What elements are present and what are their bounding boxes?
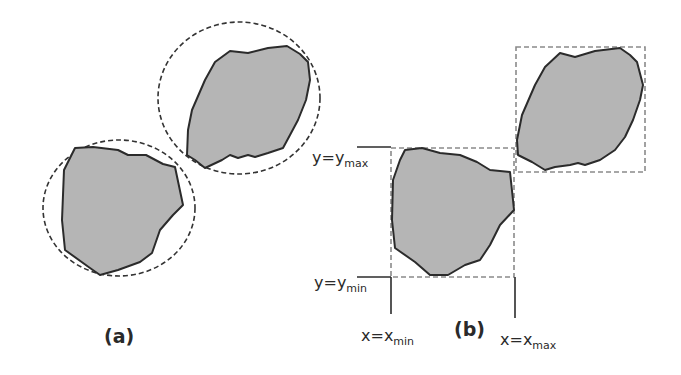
bounding-shapes-diagram: (a) y=ymax y=ymin x=xmin x=xmax (b)	[0, 0, 681, 375]
particle-a-lower	[62, 147, 183, 275]
x-min-label: x=xmin	[361, 326, 414, 348]
particle-b-lower	[392, 148, 514, 275]
x-max-label: x=xmax	[500, 330, 557, 352]
panel-a: (a)	[43, 22, 320, 347]
particle-a-upper	[187, 46, 310, 168]
particle-b-upper	[517, 48, 643, 170]
panel-a-label: (a)	[104, 325, 134, 347]
panel-b-label: (b)	[454, 318, 485, 340]
y-max-label: y=ymax	[312, 148, 369, 170]
panel-b: y=ymax y=ymin x=xmin x=xmax (b)	[312, 47, 645, 352]
